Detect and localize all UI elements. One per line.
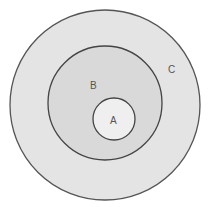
set-b-label: B xyxy=(90,80,97,91)
set-c-label: C xyxy=(168,64,175,75)
nested-sets-diagram: C B A xyxy=(0,0,210,207)
set-a-label: A xyxy=(110,115,117,126)
